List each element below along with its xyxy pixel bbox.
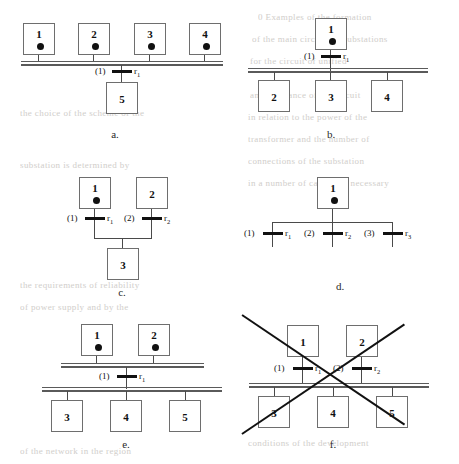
- panel-b-lead-4: [387, 72, 388, 80]
- box-number: 3: [316, 92, 346, 103]
- panel-c-branch-number-2: (2): [124, 214, 135, 223]
- panel-c-resistor-label-1: r1: [107, 214, 113, 225]
- source-dot-icon: [329, 38, 336, 45]
- panel-a-box-3: 3: [134, 23, 166, 55]
- panel-a-caption: a.: [100, 128, 130, 140]
- box-number: 2: [79, 29, 109, 40]
- panel-f: 1 2 (1) r1 (2) r2 3 4 5: [240, 305, 459, 464]
- panel-f-lead-3: [274, 387, 275, 396]
- box-number: 4: [372, 92, 402, 103]
- source-dot-icon: [95, 344, 102, 351]
- panel-b-box-4: 4: [371, 80, 403, 112]
- panel-b-box-3: 3: [315, 80, 347, 112]
- panel-c-breaker-2: [142, 217, 162, 220]
- panel-a-branch-lead: [121, 65, 122, 82]
- panel-a-box-4: 4: [189, 23, 221, 55]
- panel-e-lead-5: [185, 391, 186, 400]
- panel-e-box-3: 3: [51, 400, 83, 432]
- box-number: 1: [316, 24, 346, 35]
- resistor-index: 1: [346, 56, 349, 63]
- panel-a-box-2: 2: [78, 23, 110, 55]
- panel-e-lower-busbar: [42, 387, 222, 392]
- panel-c-box-2: 2: [136, 177, 168, 209]
- panel-f-box-1: 1: [287, 325, 319, 357]
- panel-e-box-2: 2: [138, 324, 170, 356]
- resistor-index: 2: [167, 218, 170, 225]
- panel-d-breaker-3: [383, 232, 403, 235]
- panel-d-box-1: 1: [317, 177, 349, 209]
- source-dot-icon: [37, 43, 44, 50]
- panel-f-caption: f.: [318, 438, 348, 450]
- panel-f-lead-1: [302, 357, 303, 384]
- panel-d-breaker-2: [323, 232, 343, 235]
- panel-f-box-4: 4: [317, 396, 349, 428]
- panel-f-lead-5: [392, 387, 393, 396]
- resistor-index: 1: [142, 376, 145, 383]
- resistor-index: 2: [348, 233, 351, 240]
- box-number: 2: [259, 92, 289, 103]
- panel-e-caption: e.: [111, 438, 141, 450]
- panel-b-branch-number: (1): [304, 52, 315, 61]
- panel-c: 1 2 (1) r1 (2) r2 3 c.: [0, 150, 230, 305]
- panel-f-busbar: [249, 383, 429, 388]
- resistor-index: 1: [110, 218, 113, 225]
- panel-e-lead-4: [126, 391, 127, 400]
- panel-a-branch-number: (1): [95, 67, 106, 76]
- panel-d-branch-number-3: (3): [364, 229, 375, 238]
- resistor-index: 1: [137, 71, 140, 78]
- panel-b-lead-3: [330, 72, 331, 80]
- box-number: 3: [135, 29, 165, 40]
- resistor-index: 3: [408, 233, 411, 240]
- panel-c-lead-2: [151, 209, 152, 239]
- box-number: 4: [190, 29, 220, 40]
- panel-d-stem: [332, 209, 333, 223]
- box-number: 4: [318, 408, 348, 419]
- box-number: 1: [80, 183, 110, 194]
- panel-a-resistor-label: r1: [134, 67, 140, 78]
- panel-e-breaker-1: [117, 375, 137, 378]
- box-number: 1: [24, 29, 54, 40]
- box-number: 1: [82, 330, 112, 341]
- panel-d-resistor-label-2: r2: [345, 229, 351, 240]
- panel-b-lead-2: [274, 72, 275, 80]
- resistor-index: 2: [377, 368, 380, 375]
- panel-c-drop-wire: [122, 238, 123, 248]
- figure-page: 0 Examples of the formation of the main …: [0, 0, 459, 464]
- box-number: 1: [318, 183, 348, 194]
- panel-b-breaker-1: [321, 55, 341, 58]
- source-dot-icon: [331, 197, 338, 204]
- panel-c-box-1: 1: [79, 177, 111, 209]
- panel-b-box-1: 1: [315, 18, 347, 50]
- panel-d-resistor-label-3: r3: [405, 229, 411, 240]
- panel-f-lead-4: [333, 387, 334, 396]
- box-number: 2: [137, 189, 167, 200]
- panel-f-breaker-2: [352, 367, 372, 370]
- panel-e-branch-number: (1): [99, 372, 110, 381]
- source-dot-icon: [93, 197, 100, 204]
- panel-a-box-5: 5: [106, 82, 138, 114]
- source-dot-icon: [203, 43, 210, 50]
- panel-c-resistor-label-2: r2: [164, 214, 170, 225]
- box-number: 5: [170, 412, 200, 423]
- panel-b: 1 (1) r1 2 3 4 b.: [230, 0, 459, 150]
- panel-a: 1 2 3 4 (1) r1 5 a.: [0, 0, 230, 150]
- panel-a-box-1: 1: [23, 23, 55, 55]
- source-dot-icon: [152, 344, 159, 351]
- panel-c-branch-number-1: (1): [67, 214, 78, 223]
- panel-d: 1 (1) r1 (2) r2 (3) r3 d.: [230, 150, 459, 305]
- panel-f-lead-2: [361, 357, 362, 384]
- panel-e-box-5: 5: [169, 400, 201, 432]
- resistor-index: 1: [288, 233, 291, 240]
- panel-d-breaker-1: [263, 232, 283, 235]
- source-dot-icon: [92, 43, 99, 50]
- panel-d-caption: d.: [325, 280, 355, 292]
- panel-e-upper-busbar: [61, 363, 204, 368]
- panel-c-lead-1: [94, 209, 95, 239]
- panel-f-resistor-label-2: r2: [374, 364, 380, 375]
- panel-e-box-4: 4: [110, 400, 142, 432]
- panel-d-branch-number-2: (2): [304, 229, 315, 238]
- panel-b-box-2: 2: [258, 80, 290, 112]
- panel-e-lead-3: [67, 391, 68, 400]
- panel-e-box-1: 1: [81, 324, 113, 356]
- panel-f-breaker-1: [293, 367, 313, 370]
